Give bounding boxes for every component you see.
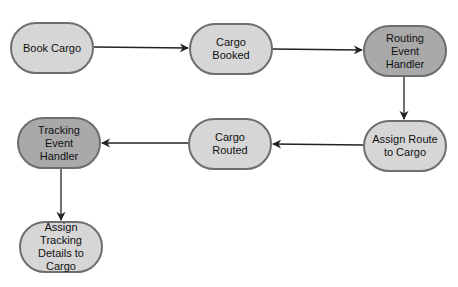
edge-assign-route-to-cargo-routed	[273, 144, 363, 145]
node-routing-event-handler[interactable]: Routing Event Handler	[363, 25, 447, 77]
node-assign-route-to-cargo[interactable]: Assign Route to Cargo	[363, 120, 447, 172]
node-label: Tracking Event Handler	[25, 124, 93, 163]
node-assign-tracking-details[interactable]: Assign Tracking Details to Cargo	[19, 221, 103, 273]
edge-book-cargo-to-cargo-booked	[94, 47, 188, 48]
node-label: Cargo Routed	[196, 131, 264, 157]
node-cargo-booked[interactable]: Cargo Booked	[189, 23, 273, 75]
node-tracking-event-handler[interactable]: Tracking Event Handler	[17, 117, 101, 169]
node-book-cargo[interactable]: Book Cargo	[10, 22, 94, 74]
node-label: Book Cargo	[23, 42, 81, 55]
node-label: Routing Event Handler	[371, 32, 439, 71]
node-label: Cargo Booked	[197, 36, 265, 62]
node-cargo-routed[interactable]: Cargo Routed	[188, 118, 272, 170]
diagram-canvas: Book Cargo Cargo Booked Routing Event Ha…	[0, 0, 458, 287]
edge-cargo-booked-to-routing-handler	[273, 49, 362, 50]
node-label: Assign Route to Cargo	[371, 133, 439, 159]
node-label: Assign Tracking Details to Cargo	[27, 221, 95, 273]
